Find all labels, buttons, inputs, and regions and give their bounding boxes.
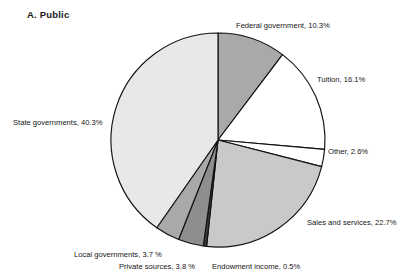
pie-slice-label: Private sources, 3.8 % bbox=[119, 263, 195, 271]
pie-slice-label: Other, 2.6% bbox=[328, 148, 368, 156]
pie-chart-canvas bbox=[0, 0, 404, 276]
pie-slice-label: Sales and services, 22.7% bbox=[307, 219, 397, 227]
pie-slices-group bbox=[111, 33, 325, 247]
pie-slice-label: Endowment income, 0.5% bbox=[212, 263, 300, 271]
pie-slice-label: Tuition, 16.1% bbox=[317, 76, 365, 84]
pie-slice-label: State governments, 40.3% bbox=[13, 119, 103, 127]
pie-slice-label: Federal government, 10.3% bbox=[236, 22, 330, 30]
pie-chart-figure: A. Public Federal government, 10.3%Tuiti… bbox=[0, 0, 404, 276]
pie-slice-label: Local governments, 3.7 % bbox=[74, 251, 162, 259]
